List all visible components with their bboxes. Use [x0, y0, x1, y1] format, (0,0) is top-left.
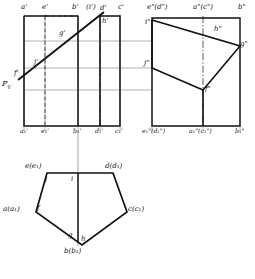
side-view-cut-face [152, 20, 240, 126]
label-j: j [45, 176, 47, 183]
label-c-c1: c(c₁) [128, 206, 144, 213]
label-b-prime: b' [72, 4, 78, 11]
pv-subscript: V [7, 84, 11, 90]
label-h-prime: h' [102, 18, 108, 25]
front-view-thin-lines [24, 14, 120, 126]
label-d1-prime: d₁' [95, 128, 103, 134]
label-b-b1: b(b₁) [64, 248, 81, 255]
label-f-prime: f' [14, 70, 19, 77]
label-a1-prime: a₁' [20, 128, 28, 134]
top-view-group [36, 131, 127, 246]
label-j-double-prime: j" [144, 60, 149, 67]
label-e-d-double-prime: e"(d") [147, 4, 168, 11]
label-c-prime: c' [118, 4, 124, 11]
label-e1-d1-double-prime: e₁"(d₁") [142, 128, 165, 134]
label-d-d1: d(d₁) [105, 163, 122, 170]
label-b1-double-prime: b₁" [235, 128, 244, 134]
front-view-cutting-plane-trace [18, 12, 104, 80]
label-i: i [71, 176, 73, 183]
label-e-prime: e' [42, 4, 48, 11]
front-to-side-projectors [24, 41, 152, 90]
label-e1-prime: e₁' [41, 128, 49, 134]
label-a-a1: a(a₁) [3, 206, 20, 213]
label-c1-prime: c₁' [115, 128, 123, 134]
side-view-group [152, 16, 240, 131]
front-view-group [18, 12, 152, 131]
front-view-outline [24, 16, 120, 126]
label-g-double-prime: g" [240, 41, 248, 48]
label-a1-c1-double-prime: a₁"(c₁") [189, 128, 212, 134]
drawing-svg [0, 0, 255, 279]
label-f-double-prime: f" [205, 86, 211, 93]
label-h: h [81, 236, 86, 243]
label-e-e1: e(e₁) [25, 163, 42, 170]
label-f: f [37, 205, 40, 212]
label-j-prime: j' [34, 59, 38, 66]
label-cutting-plane-pv: PV [2, 80, 11, 90]
label-b-double-prime: b" [238, 4, 246, 11]
label-b1-prime: b₁' [73, 128, 81, 134]
side-view-outline [152, 18, 240, 126]
drawing-canvas: a' e' b' (i') d' c' g' h' j' f' PV a₁' e… [0, 0, 255, 279]
label-g-prime: g' [59, 30, 65, 37]
label-d-prime: d' [100, 5, 106, 12]
label-i-double-prime: i" [145, 19, 150, 26]
label-a-c-double-prime: a"(c") [193, 4, 213, 11]
label-g: g [68, 232, 72, 239]
label-a-prime: a' [21, 4, 27, 11]
label-i-prime: (i') [86, 4, 96, 11]
label-h-double-prime: h" [214, 26, 222, 33]
